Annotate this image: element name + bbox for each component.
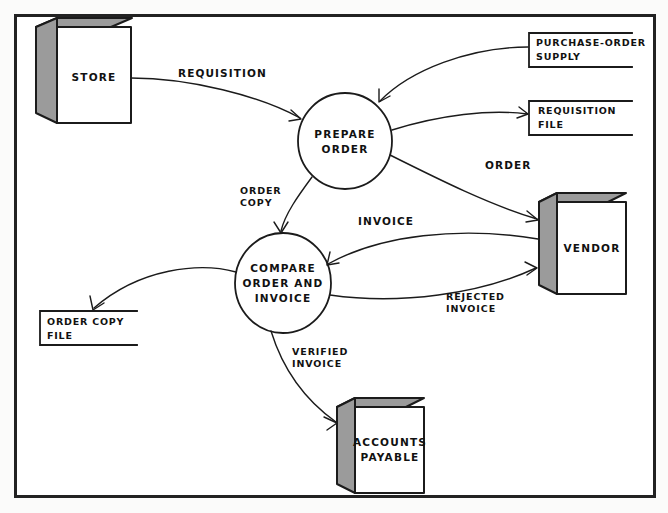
- flow-verified-invoice-label-line1: VERIFIED: [292, 346, 348, 357]
- diagram-page: STORE PREPARE ORDER COMPARE ORDER AND IN…: [0, 0, 668, 513]
- accounts-payable-label-line2: PAYABLE: [361, 451, 420, 463]
- flow-order-copy-label-line2: COPY: [240, 197, 273, 208]
- flow-order-label: ORDER: [485, 159, 532, 171]
- prepare-order-circle: [298, 93, 392, 189]
- vendor-left-face: [539, 193, 557, 294]
- flow-rejected-invoice-label-line1: REJECTED: [446, 291, 505, 302]
- flow-rejected-invoice-label-line2: INVOICE: [446, 303, 496, 314]
- flow-order-copy-label-line1: ORDER: [240, 185, 282, 196]
- dataflow-diagram-canvas: STORE PREPARE ORDER COMPARE ORDER AND IN…: [0, 0, 668, 513]
- requisition-file-label-line2: FILE: [538, 119, 564, 130]
- purchase-order-supply-label-line2: SUPPLY: [536, 51, 581, 62]
- entity-store[interactable]: STORE: [36, 18, 132, 123]
- compare-label-line2: ORDER AND: [242, 277, 323, 289]
- entity-vendor[interactable]: VENDOR: [539, 193, 626, 294]
- order-copy-file-label-line2: FILE: [47, 330, 73, 341]
- prepare-order-label-line2: ORDER: [322, 143, 369, 155]
- entity-accounts-payable[interactable]: ACCOUNTS PAYABLE: [337, 398, 427, 493]
- entity-vendor-label: VENDOR: [563, 242, 620, 254]
- compare-label-line1: COMPARE: [250, 262, 316, 274]
- accounts-payable-label-line1: ACCOUNTS: [353, 436, 427, 448]
- process-compare-order-and-invoice[interactable]: COMPARE ORDER AND INVOICE: [235, 233, 331, 333]
- compare-label-line3: INVOICE: [255, 292, 312, 304]
- requisition-file-label-line1: REQUISITION: [538, 105, 616, 116]
- store-left-face: [36, 18, 57, 123]
- flow-verified-invoice-label-line2: INVOICE: [292, 358, 342, 369]
- entity-store-label: STORE: [72, 71, 117, 83]
- prepare-order-label-line1: PREPARE: [314, 128, 375, 140]
- purchase-order-supply-label-line1: PURCHASE-ORDER: [536, 37, 646, 48]
- process-prepare-order[interactable]: PREPARE ORDER: [298, 93, 392, 189]
- flow-invoice-label: INVOICE: [358, 215, 414, 227]
- flow-requisition-label: REQUISITION: [178, 67, 267, 79]
- order-copy-file-label-line1: ORDER COPY: [47, 316, 124, 327]
- accounts-payable-front-face: [355, 407, 424, 493]
